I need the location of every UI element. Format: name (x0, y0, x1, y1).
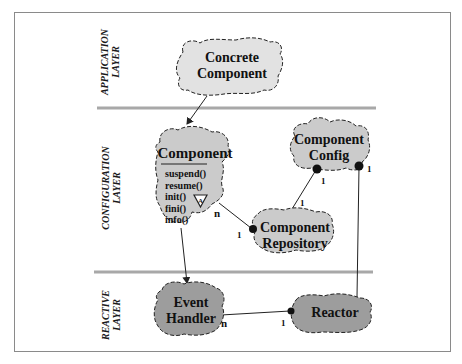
method-suspend: suspend() (165, 168, 206, 180)
event-handler-line1: Event (160, 295, 222, 311)
dot-config-repository-end (313, 165, 322, 174)
component-title: Component (155, 145, 235, 161)
layer-label-configuration-line2: LAYER (111, 138, 122, 238)
component-methods: suspend() resume() init() fini() info() (165, 168, 206, 226)
concrete-component-label: Concrete Component (190, 50, 274, 82)
mult-repository-config-1b: 1 (300, 198, 305, 209)
component-repository-label: Component Repository (256, 220, 334, 252)
method-init: init() (165, 191, 206, 203)
inherit-concrete-to-component (187, 96, 207, 124)
inherit-component-to-eventhandler (181, 228, 187, 283)
method-fini: fini() (165, 203, 206, 215)
component-repository-line1: Component (256, 220, 334, 236)
method-resume: resume() (165, 180, 206, 192)
mult-component-repository-1: 1 (237, 230, 242, 241)
mult-eventhandler-reactor-1: 1 (281, 318, 286, 329)
mult-repository-config-1a: 1 (321, 176, 326, 187)
mult-component-repository-n: n (214, 208, 220, 219)
layer-label-configuration: CONFIGURATION LAYER (100, 138, 124, 238)
mult-config-reactor-1: 1 (367, 164, 372, 175)
assoc-reactor-config (357, 167, 359, 297)
layer-label-reactive-line1: REACTIVE (100, 285, 111, 345)
assoc-eventhandler-reactor (221, 311, 290, 315)
layer-label-application-line2: LAYER (110, 27, 121, 97)
component-config-label: Component Config (290, 132, 368, 164)
component-config-line2: Config (290, 148, 368, 164)
layer-label-application: APPLICATION LAYER (99, 27, 123, 97)
component-config-line1: Component (290, 132, 368, 148)
layer-label-application-line1: APPLICATION (99, 27, 110, 97)
dot-reactor-eventhandler-end (288, 308, 295, 315)
event-handler-label: Event Handler (160, 295, 222, 327)
layer-label-reactive: REACTIVE LAYER (100, 285, 124, 345)
method-info: info() (165, 214, 206, 226)
layer-label-configuration-line1: CONFIGURATION (100, 138, 111, 238)
concrete-component-line2: Component (190, 66, 274, 82)
assoc-component-repository (219, 203, 251, 228)
concrete-component-line1: Concrete (190, 50, 274, 66)
event-handler-line2: Handler (160, 311, 222, 327)
reactor-label: Reactor (300, 305, 370, 321)
component-repository-line2: Repository (256, 236, 334, 252)
layer-label-reactive-line2: LAYER (111, 285, 122, 345)
mult-eventhandler-reactor-n: n (221, 318, 227, 329)
